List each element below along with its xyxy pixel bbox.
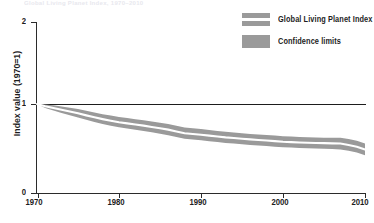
legend: Global Living Planet Index Confidence li… <box>242 13 374 57</box>
legend-swatch-confidence-icon <box>242 35 270 48</box>
legend-swatch-index-icon <box>242 13 270 26</box>
legend-item-index[interactable]: Global Living Planet Index <box>242 13 374 26</box>
living-planet-index-chart: Global Living Planet Index, 1970–2010 In… <box>0 0 374 223</box>
confidence-band <box>37 104 365 155</box>
legend-label-index: Global Living Planet Index <box>278 15 372 24</box>
legend-item-confidence[interactable]: Confidence limits <box>242 35 374 48</box>
legend-label-confidence: Confidence limits <box>278 37 341 46</box>
